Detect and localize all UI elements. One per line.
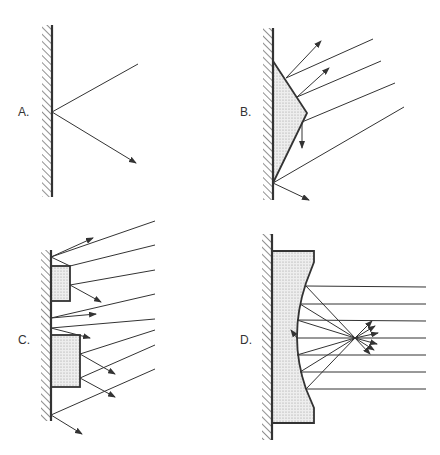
panel-d bbox=[262, 234, 426, 440]
panel-a bbox=[42, 25, 138, 197]
small-block-diffuser bbox=[51, 266, 70, 301]
reflection-diagram bbox=[0, 0, 440, 455]
large-block-diffuser bbox=[51, 335, 80, 387]
incident-ray bbox=[52, 64, 138, 112]
panel-c bbox=[41, 221, 155, 434]
concave-reflector bbox=[272, 251, 314, 423]
reflected-ray-arrow bbox=[52, 112, 136, 163]
panel-b bbox=[263, 28, 404, 200]
wall-hatching bbox=[263, 28, 273, 200]
wall-hatching bbox=[262, 234, 272, 440]
wall-hatching bbox=[41, 250, 51, 421]
wall-hatching bbox=[42, 25, 52, 197]
